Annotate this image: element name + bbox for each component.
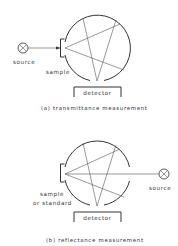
source-lamp-icon-b: [159, 169, 169, 179]
sphere-a: [65, 15, 130, 80]
caption-b: (b) reflectance measurement: [46, 237, 144, 243]
sample-port-b: [61, 164, 65, 182]
caption-a: (a) transmittance measurement: [41, 105, 148, 111]
sample-label-b-line1: sample: [40, 191, 64, 198]
panel-a-transmittance: detector source sample (a) transmittance…: [13, 15, 148, 111]
panel-b-reflectance: detector source sample or standard (b) r…: [33, 141, 171, 243]
sample-port-a: [61, 39, 65, 57]
source-label-a: source: [13, 59, 35, 65]
sample-label-a: sample: [46, 69, 70, 76]
detector-label-b: detector: [83, 215, 112, 221]
sample-label-b-line2: or standard: [33, 200, 72, 206]
detector-label-a: detector: [83, 90, 112, 96]
source-label-b: source: [149, 185, 171, 191]
source-lamp-icon-a: [18, 43, 28, 53]
integrating-sphere-figure: detector source sample (a) transmittance…: [0, 0, 178, 246]
arrow-icon-a: [56, 47, 61, 50]
